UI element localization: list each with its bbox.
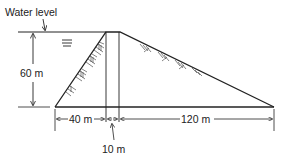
upstream-base-label: 40 m [69, 113, 93, 125]
downstream-base-label: 120 m [181, 113, 210, 125]
dam-body [55, 32, 274, 122]
height-label: 60 m [20, 67, 44, 79]
crest-width-label: 10 m [102, 143, 126, 155]
downstream-hatching [140, 44, 202, 76]
base-dimensions: 40 m 120 m 10 m [55, 109, 274, 155]
water-surface [18, 32, 106, 46]
upstream-hatching [66, 42, 104, 96]
water-level-arrow-icon [43, 19, 45, 30]
water-level-label: Water level [5, 6, 57, 18]
dam-diagram: Water level 60 m 40 m [0, 0, 284, 165]
height-dimension: 60 m [18, 34, 50, 107]
